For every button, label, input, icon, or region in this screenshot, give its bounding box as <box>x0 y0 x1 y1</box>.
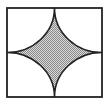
shaded-region <box>7 8 102 97</box>
diagram-canvas <box>0 0 108 106</box>
geometry-diagram <box>0 0 108 106</box>
